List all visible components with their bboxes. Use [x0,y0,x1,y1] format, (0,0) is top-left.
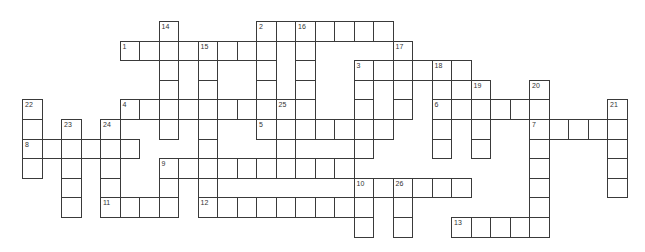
crossword-cell[interactable] [354,197,375,218]
crossword-cell[interactable] [100,139,121,160]
crossword-cell[interactable] [295,99,316,120]
crossword-cell[interactable] [139,99,160,120]
crossword-cell[interactable] [198,139,219,160]
crossword-cell[interactable] [198,119,219,140]
crossword-cell[interactable] [100,158,121,179]
crossword-cell[interactable]: 10 [354,178,375,199]
crossword-cell[interactable] [295,119,316,140]
crossword-cell[interactable]: 18 [432,60,453,81]
crossword-cell[interactable] [256,60,277,81]
crossword-cell[interactable]: 24 [100,119,121,140]
crossword-cell[interactable] [276,21,297,42]
crossword-cell[interactable] [120,139,141,160]
crossword-cell[interactable] [295,197,316,218]
crossword-cell[interactable] [237,99,258,120]
crossword-cell[interactable] [276,139,297,160]
crossword-cell[interactable] [451,99,472,120]
crossword-cell[interactable] [568,119,589,140]
crossword-cell[interactable] [393,60,414,81]
crossword-cell[interactable] [588,119,609,140]
crossword-cell[interactable] [529,158,550,179]
crossword-cell[interactable]: 1 [120,41,141,62]
crossword-cell[interactable] [490,217,511,238]
crossword-cell[interactable]: 16 [295,21,316,42]
crossword-cell[interactable]: 15 [198,41,219,62]
crossword-cell[interactable] [393,99,414,120]
crossword-cell[interactable] [178,99,199,120]
crossword-cell[interactable] [334,197,355,218]
crossword-cell[interactable] [198,178,219,199]
crossword-cell[interactable] [61,158,82,179]
crossword-cell[interactable] [451,178,472,199]
crossword-cell[interactable] [295,80,316,101]
crossword-cell[interactable] [432,178,453,199]
crossword-cell[interactable]: 21 [607,99,628,120]
crossword-cell[interactable]: 20 [529,80,550,101]
crossword-cell[interactable] [276,119,297,140]
crossword-cell[interactable] [100,178,121,199]
crossword-cell[interactable] [22,158,43,179]
crossword-cell[interactable] [217,197,238,218]
crossword-cell[interactable]: 5 [256,119,277,140]
crossword-cell[interactable] [471,139,492,160]
crossword-cell[interactable] [295,60,316,81]
crossword-cell[interactable]: 23 [61,119,82,140]
crossword-cell[interactable]: 8 [22,139,43,160]
crossword-cell[interactable] [529,99,550,120]
crossword-cell[interactable] [256,41,277,62]
crossword-cell[interactable]: 25 [276,99,297,120]
crossword-cell[interactable] [334,21,355,42]
crossword-cell[interactable] [412,178,433,199]
crossword-cell[interactable] [373,119,394,140]
crossword-cell[interactable] [334,158,355,179]
crossword-cell[interactable] [354,217,375,238]
crossword-cell[interactable] [139,197,160,218]
crossword-cell[interactable] [198,60,219,81]
crossword-cell[interactable] [607,119,628,140]
crossword-cell[interactable] [198,158,219,179]
crossword-cell[interactable] [607,139,628,160]
crossword-cell[interactable] [237,197,258,218]
crossword-cell[interactable] [256,197,277,218]
crossword-cell[interactable] [256,158,277,179]
crossword-cell[interactable] [159,80,180,101]
crossword-cell[interactable] [334,119,355,140]
crossword-cell[interactable] [354,99,375,120]
crossword-cell[interactable] [256,99,277,120]
crossword-cell[interactable] [354,21,375,42]
crossword-cell[interactable] [529,197,550,218]
crossword-cell[interactable] [354,119,375,140]
crossword-cell[interactable] [139,41,160,62]
crossword-cell[interactable] [412,60,433,81]
crossword-cell[interactable] [315,158,336,179]
crossword-cell[interactable] [81,139,102,160]
crossword-cell[interactable] [354,80,375,101]
crossword-cell[interactable] [393,80,414,101]
crossword-cell[interactable] [295,158,316,179]
crossword-cell[interactable]: 9 [159,158,180,179]
crossword-cell[interactable] [61,139,82,160]
crossword-cell[interactable]: 4 [120,99,141,120]
crossword-cell[interactable] [373,21,394,42]
crossword-cell[interactable]: 6 [432,99,453,120]
crossword-cell[interactable] [471,119,492,140]
crossword-cell[interactable] [61,197,82,218]
crossword-cell[interactable]: 3 [354,60,375,81]
crossword-cell[interactable]: 2 [256,21,277,42]
crossword-cell[interactable] [510,99,531,120]
crossword-cell[interactable] [529,178,550,199]
crossword-cell[interactable] [549,119,570,140]
crossword-cell[interactable] [256,80,277,101]
crossword-cell[interactable]: 19 [471,80,492,101]
crossword-cell[interactable] [471,217,492,238]
crossword-cell[interactable] [315,21,336,42]
crossword-cell[interactable]: 13 [451,217,472,238]
crossword-cell[interactable] [276,197,297,218]
crossword-cell[interactable] [315,119,336,140]
crossword-cell[interactable]: 22 [22,99,43,120]
crossword-cell[interactable] [607,158,628,179]
crossword-cell[interactable] [373,178,394,199]
crossword-cell[interactable]: 12 [198,197,219,218]
crossword-cell[interactable] [159,60,180,81]
crossword-cell[interactable] [42,139,63,160]
